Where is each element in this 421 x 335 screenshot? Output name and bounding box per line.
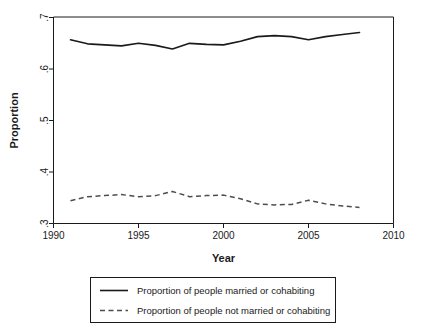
x-tick-label-1995: 1995	[127, 230, 150, 241]
x-tick-label-2010: 2010	[382, 230, 405, 241]
axes-frame	[54, 17, 394, 224]
series-line-not-married-or-cohabiting	[71, 191, 360, 207]
y-axis-ticks: .7 .6 .5 .4 .3	[39, 13, 54, 228]
y-axis-title: Proportion	[8, 92, 20, 148]
y-tick-label-0.5: .5	[39, 116, 50, 125]
x-tick-label-2005: 2005	[297, 230, 320, 241]
chart-legend: Proportion of people married or cohabiti…	[91, 278, 336, 323]
y-tick-label-0.4: .4	[39, 167, 50, 176]
y-tick-label-0.6: .6	[39, 64, 50, 73]
legend-label-not-married-or-cohabiting: Proportion of people not married or coha…	[137, 305, 330, 316]
chart-figure: .7 .6 .5 .4 .3 1990 1995 2000 2005 2010 …	[0, 0, 421, 335]
x-tick-label-2000: 2000	[212, 230, 235, 241]
x-tick-label-1990: 1990	[42, 230, 65, 241]
series-line-married-or-cohabiting	[71, 32, 360, 49]
data-series-group	[71, 32, 360, 207]
y-tick-label-0.7: .7	[39, 13, 50, 22]
legend-label-married-or-cohabiting: Proportion of people married or cohabiti…	[137, 285, 314, 296]
y-tick-label-0.3: .3	[39, 219, 50, 228]
x-axis-ticks: 1990 1995 2000 2005 2010	[42, 224, 405, 242]
x-axis-title: Year	[212, 252, 236, 264]
